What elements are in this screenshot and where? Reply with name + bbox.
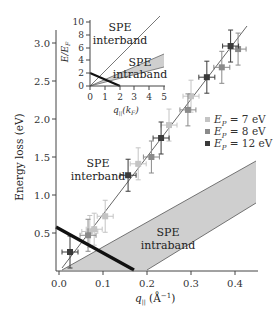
inset-y-tick-label: 0 <box>78 81 84 91</box>
data-point <box>143 141 159 173</box>
x-tick-label: 0.4 <box>227 278 243 289</box>
x-tick-label: 0.1 <box>95 278 111 289</box>
inset-interband-label-spe: SPE <box>109 21 132 34</box>
y-tick-label: 1.0 <box>34 190 50 201</box>
x-tick-label: 0.2 <box>139 278 155 289</box>
legend-swatch <box>205 129 210 134</box>
inset-x-tick-label: 1 <box>102 92 108 102</box>
inset-y-tick-label: 2 <box>78 68 84 78</box>
data-point <box>214 51 230 83</box>
y-tick-label: 3.0 <box>34 38 50 49</box>
data-point <box>230 33 246 65</box>
x-tick-label: 0.0 <box>51 278 67 289</box>
inset-intraband-label: intraband <box>113 68 168 81</box>
y-axis-title: Energy loss (eV) <box>13 113 25 200</box>
legend: EP = 7 eV EP = 8 eV EP = 12 eV <box>205 113 273 152</box>
data-point <box>223 30 239 62</box>
inset-x-tick-label: 4 <box>146 92 152 102</box>
inset-x-tick-label: 3 <box>131 92 137 102</box>
legend-swatch <box>205 117 210 122</box>
inset-x-tick-label: 2 <box>117 92 123 102</box>
intraband-label: intraband <box>141 239 196 252</box>
y-tick-label: 2.0 <box>34 114 50 125</box>
data-point <box>199 61 215 93</box>
x-ticks <box>59 271 235 275</box>
inset-x-tick-label: 0 <box>87 92 93 102</box>
inset-y-tick-label: 8 <box>78 30 84 40</box>
inset-x-tick-label: 5 <box>161 92 167 102</box>
interband-label-spe: SPE <box>87 157 110 170</box>
x-tick-label: 0.3 <box>183 278 199 289</box>
y-ticks <box>52 43 56 233</box>
data-point <box>97 200 113 232</box>
inset-interband-label: interband <box>93 34 148 47</box>
y-tick-label: 2.5 <box>34 76 50 87</box>
inset-y-tick-label: 6 <box>78 43 84 53</box>
inset-y-tick-label: 10 <box>73 17 85 27</box>
inset-y-axis-title: E/EF <box>60 41 71 63</box>
y-tick-label: 1.5 <box>34 152 50 163</box>
energy-loss-chart: 0.5 1.0 1.5 2.0 2.5 3.0 0.0 0.1 0.2 0.3 … <box>0 0 274 317</box>
inset-chart: 0 2 4 6 8 10 0 1 2 3 4 5 E/EF q||(kF) SP… <box>60 14 168 117</box>
inset-y-tick-label: 4 <box>78 55 84 65</box>
x-axis-title: q|| (Å−1) <box>135 291 175 306</box>
legend-swatch <box>205 141 210 146</box>
y-tick-label: 0.5 <box>34 228 50 239</box>
intraband-label-spe: SPE <box>157 226 180 239</box>
interband-label: interband <box>71 170 126 183</box>
inset-x-axis-title: q||(kF) <box>113 105 139 117</box>
